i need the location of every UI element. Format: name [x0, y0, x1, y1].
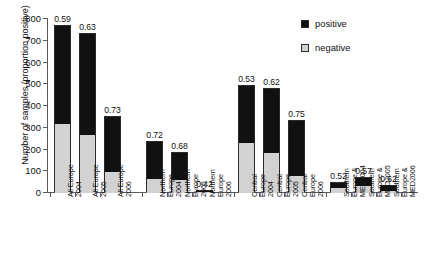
- bar-value-label: 0.63: [79, 22, 96, 32]
- bar-segment-positive[interactable]: [264, 89, 279, 153]
- bar-segment-positive[interactable]: [239, 86, 254, 143]
- bar-value-label: 0.59: [54, 14, 71, 24]
- x-tick-mark: [326, 193, 327, 197]
- x-axis-label: CentralEurope2005: [276, 174, 301, 197]
- x-axis-label: All Europe2006: [117, 164, 133, 197]
- bar-segment-positive[interactable]: [55, 26, 70, 125]
- legend-item-label: negative: [315, 42, 350, 53]
- y-tick-mark: [43, 149, 47, 150]
- x-axis-label: All Europe2004: [67, 164, 83, 197]
- chart-legend: positivenegative: [301, 18, 350, 66]
- y-tick-label: 400: [25, 100, 41, 111]
- bar-value-label: 0.53: [238, 74, 255, 84]
- x-axis-label-line: MED2006: [409, 165, 417, 197]
- y-tick-label: 200: [25, 143, 41, 154]
- y-tick: 500: [47, 83, 48, 84]
- y-tick-label: 100: [25, 165, 41, 176]
- y-tick-mark: [43, 170, 47, 171]
- y-tick-label: 700: [25, 34, 41, 45]
- x-axis-label-line: 2006: [317, 174, 325, 197]
- y-tick-label: 800: [25, 13, 41, 24]
- x-axis-label-line: 2004: [267, 174, 275, 197]
- x-axis-label: CentralEurope2006: [301, 174, 326, 197]
- x-axis-label: SouthernEurope &MED2005: [368, 165, 393, 197]
- x-axis-label: NorthernEurope2004: [159, 169, 184, 197]
- x-axis-label-line: 2005: [200, 169, 208, 197]
- x-axis-label-line: 2006: [225, 169, 233, 197]
- y-tick: 200: [47, 149, 48, 150]
- y-tick-mark: [43, 83, 47, 84]
- x-tick-mark: [234, 193, 235, 197]
- legend-item-label: positive: [315, 18, 347, 29]
- x-axis-label: NorthernEurope2005: [184, 169, 209, 197]
- x-tick-mark: [50, 193, 51, 197]
- x-tick-mark: [142, 193, 143, 197]
- bar-value-label: 0.75: [288, 109, 305, 119]
- x-axis-label: SouthernEurope &MED2004: [343, 165, 368, 197]
- x-axis-label-line: 2005: [292, 174, 300, 197]
- x-axis-label-line: 2005: [100, 164, 108, 197]
- y-tick-label: 0: [36, 187, 41, 198]
- stacked-bar-chart: Number of samples (proportion positive) …: [0, 0, 424, 256]
- y-tick-mark: [43, 192, 47, 193]
- y-tick: 0: [47, 192, 48, 193]
- x-axis-label: NorthernEurope2006: [209, 169, 234, 197]
- legend-item[interactable]: negative: [301, 42, 350, 53]
- bar-value-label: 0.68: [171, 141, 188, 151]
- x-axis-label-line: 2004: [175, 169, 183, 197]
- y-tick: 300: [47, 127, 48, 128]
- y-tick-label: 300: [25, 121, 41, 132]
- x-axis-label-line: MED2004: [359, 165, 367, 197]
- y-tick-label: 500: [25, 78, 41, 89]
- y-tick-mark: [43, 62, 47, 63]
- black-square-icon: [301, 20, 309, 28]
- x-axis-label-line: MED2005: [384, 165, 392, 197]
- bar-value-label: 0.62: [263, 77, 280, 87]
- y-tick-mark: [43, 105, 47, 106]
- x-axis-label-line: 2006: [125, 164, 133, 197]
- y-tick-mark: [43, 18, 47, 19]
- bar-value-label: 0.72: [146, 130, 163, 140]
- x-axis-label: CentralEurope2004: [251, 174, 276, 197]
- bar-segment-positive[interactable]: [289, 121, 304, 175]
- bar-segment-positive[interactable]: [80, 34, 95, 134]
- x-axis-label: All Europe2005: [92, 164, 108, 197]
- y-tick-label: 600: [25, 56, 41, 67]
- x-axis-label: SouthernEurope &MED2006: [393, 165, 418, 197]
- gray-square-icon: [301, 44, 309, 52]
- y-tick-mark: [43, 127, 47, 128]
- y-tick: 600: [47, 62, 48, 63]
- y-tick-mark: [43, 40, 47, 41]
- y-tick: 100: [47, 170, 48, 171]
- legend-item[interactable]: positive: [301, 18, 350, 29]
- x-axis-label-line: 2004: [75, 164, 83, 197]
- bar-value-label: 0.73: [104, 105, 121, 115]
- y-tick: 400: [47, 105, 48, 106]
- y-tick: 700: [47, 40, 48, 41]
- y-tick: 800: [47, 18, 48, 19]
